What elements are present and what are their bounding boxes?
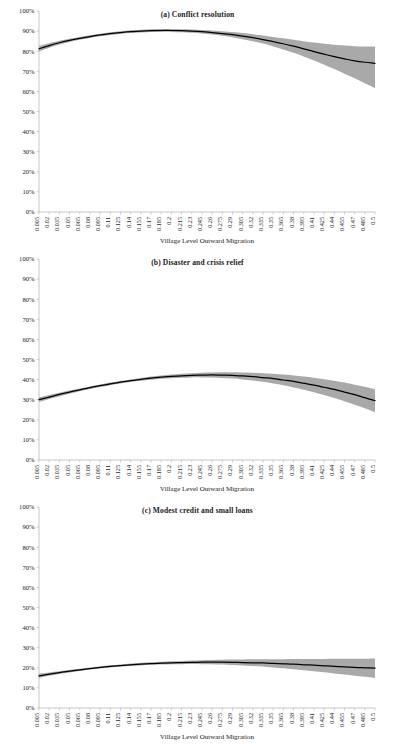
x-tick-label: 0.335 bbox=[257, 217, 264, 231]
panel-c: (c) Modest credit and small loans 100%90… bbox=[0, 496, 395, 744]
y-tick-label: 10% bbox=[22, 684, 35, 691]
x-tick-label: 0.275 bbox=[216, 465, 223, 479]
x-tick-label: 0.395 bbox=[298, 217, 305, 231]
panel-a-plot: 100%90%80%70%60%50%40%30%20%10%0%0.0050.… bbox=[0, 0, 395, 248]
y-tick-label: 100% bbox=[19, 7, 35, 14]
x-tick-label: 0.155 bbox=[135, 465, 142, 479]
y-tick-label: 60% bbox=[22, 584, 35, 591]
x-tick-label: 0.11 bbox=[104, 713, 111, 724]
x-tick-label: 0.47 bbox=[349, 713, 356, 724]
x-tick-label: 0.32 bbox=[247, 465, 254, 476]
x-tick-label: 0.245 bbox=[196, 217, 203, 231]
x-tick-label: 0.215 bbox=[176, 217, 183, 231]
y-tick-label: 50% bbox=[22, 356, 35, 363]
x-tick-label: 0.005 bbox=[33, 217, 40, 231]
x-tick-label: 0.455 bbox=[338, 217, 345, 231]
x-tick-label: 0.5 bbox=[369, 465, 376, 473]
x-tick-label: 0.38 bbox=[288, 465, 295, 476]
x-tick-label: 0.485 bbox=[359, 217, 366, 231]
x-tick-label: 0.26 bbox=[206, 713, 213, 724]
y-tick-label: 80% bbox=[22, 296, 35, 303]
y-tick-label: 50% bbox=[22, 604, 35, 611]
x-tick-label: 0.365 bbox=[277, 713, 284, 727]
x-tick-label: 0.44 bbox=[328, 465, 335, 476]
x-tick-label: 0.02 bbox=[43, 465, 50, 476]
x-tick-label: 0.425 bbox=[318, 713, 325, 727]
x-axis-title: Village Level Outward Migration bbox=[160, 237, 254, 245]
x-tick-label: 0.14 bbox=[125, 713, 132, 724]
x-tick-label: 0.215 bbox=[176, 713, 183, 727]
y-tick-label: 0% bbox=[26, 208, 35, 215]
x-tick-label: 0.23 bbox=[186, 713, 193, 724]
x-tick-label: 0.26 bbox=[206, 465, 213, 476]
y-tick-label: 80% bbox=[22, 48, 35, 55]
x-tick-label: 0.095 bbox=[94, 217, 101, 231]
y-tick-label: 10% bbox=[22, 188, 35, 195]
y-tick-label: 90% bbox=[22, 275, 35, 282]
x-tick-label: 0.095 bbox=[94, 713, 101, 727]
figure-container: (a) Conflict resolution 100%90%80%70%60%… bbox=[0, 0, 395, 744]
x-axis-title: Village Level Outward Migration bbox=[160, 733, 254, 741]
x-tick-label: 0.02 bbox=[43, 217, 50, 228]
x-tick-label: 0.485 bbox=[359, 713, 366, 727]
x-tick-label: 0.29 bbox=[226, 713, 233, 724]
x-tick-label: 0.2 bbox=[165, 217, 172, 225]
x-tick-label: 0.11 bbox=[104, 217, 111, 228]
x-tick-label: 0.17 bbox=[145, 713, 152, 724]
x-tick-label: 0.41 bbox=[308, 217, 315, 228]
y-tick-label: 70% bbox=[22, 564, 35, 571]
x-tick-label: 0.185 bbox=[155, 465, 162, 479]
x-tick-label: 0.5 bbox=[369, 713, 376, 721]
y-tick-label: 0% bbox=[26, 456, 35, 463]
x-tick-label: 0.38 bbox=[288, 217, 295, 228]
x-tick-label: 0.215 bbox=[176, 465, 183, 479]
x-tick-label: 0.08 bbox=[84, 465, 91, 476]
x-tick-label: 0.155 bbox=[135, 217, 142, 231]
y-tick-label: 40% bbox=[22, 624, 35, 631]
y-tick-label: 40% bbox=[22, 128, 35, 135]
panel-b-plot: 100%90%80%70%60%50%40%30%20%10%0%0.0050.… bbox=[0, 248, 395, 496]
x-tick-label: 0.095 bbox=[94, 465, 101, 479]
x-tick-label: 0.44 bbox=[328, 713, 335, 724]
x-tick-label: 0.185 bbox=[155, 217, 162, 231]
y-tick-label: 60% bbox=[22, 88, 35, 95]
x-tick-label: 0.08 bbox=[84, 217, 91, 228]
panel-b: (b) Disaster and crisis relief 100%90%80… bbox=[0, 248, 395, 496]
x-tick-label: 0.035 bbox=[53, 713, 60, 727]
x-tick-label: 0.035 bbox=[53, 465, 60, 479]
x-tick-label: 0.47 bbox=[349, 465, 356, 476]
x-tick-label: 0.125 bbox=[114, 465, 121, 479]
confidence-band bbox=[39, 372, 375, 412]
x-tick-label: 0.2 bbox=[165, 713, 172, 721]
x-tick-label: 0.14 bbox=[125, 465, 132, 476]
x-tick-label: 0.47 bbox=[349, 217, 356, 228]
y-tick-label: 90% bbox=[22, 27, 35, 34]
x-tick-label: 0.125 bbox=[114, 217, 121, 231]
x-tick-label: 0.32 bbox=[247, 713, 254, 724]
panel-a: (a) Conflict resolution 100%90%80%70%60%… bbox=[0, 0, 395, 248]
y-tick-label: 20% bbox=[22, 168, 35, 175]
x-tick-label: 0.5 bbox=[369, 217, 376, 225]
x-tick-label: 0.335 bbox=[257, 465, 264, 479]
x-tick-label: 0.23 bbox=[186, 465, 193, 476]
x-tick-label: 0.425 bbox=[318, 217, 325, 231]
x-tick-label: 0.26 bbox=[206, 217, 213, 228]
x-tick-label: 0.17 bbox=[145, 465, 152, 476]
x-tick-label: 0.155 bbox=[135, 713, 142, 727]
y-tick-label: 20% bbox=[22, 416, 35, 423]
panel-c-plot: 100%90%80%70%60%50%40%30%20%10%0%0.0050.… bbox=[0, 496, 395, 744]
x-tick-label: 0.365 bbox=[277, 217, 284, 231]
x-tick-label: 0.305 bbox=[237, 465, 244, 479]
confidence-band bbox=[39, 29, 375, 88]
x-tick-label: 0.44 bbox=[328, 217, 335, 228]
x-tick-label: 0.17 bbox=[145, 217, 152, 228]
x-tick-label: 0.08 bbox=[84, 713, 91, 724]
x-tick-label: 0.02 bbox=[43, 713, 50, 724]
x-tick-label: 0.05 bbox=[64, 465, 71, 476]
x-tick-label: 0.185 bbox=[155, 713, 162, 727]
y-tick-label: 30% bbox=[22, 644, 35, 651]
x-tick-label: 0.05 bbox=[64, 713, 71, 724]
y-tick-label: 10% bbox=[22, 436, 35, 443]
x-tick-label: 0.32 bbox=[247, 217, 254, 228]
y-tick-label: 90% bbox=[22, 523, 35, 530]
